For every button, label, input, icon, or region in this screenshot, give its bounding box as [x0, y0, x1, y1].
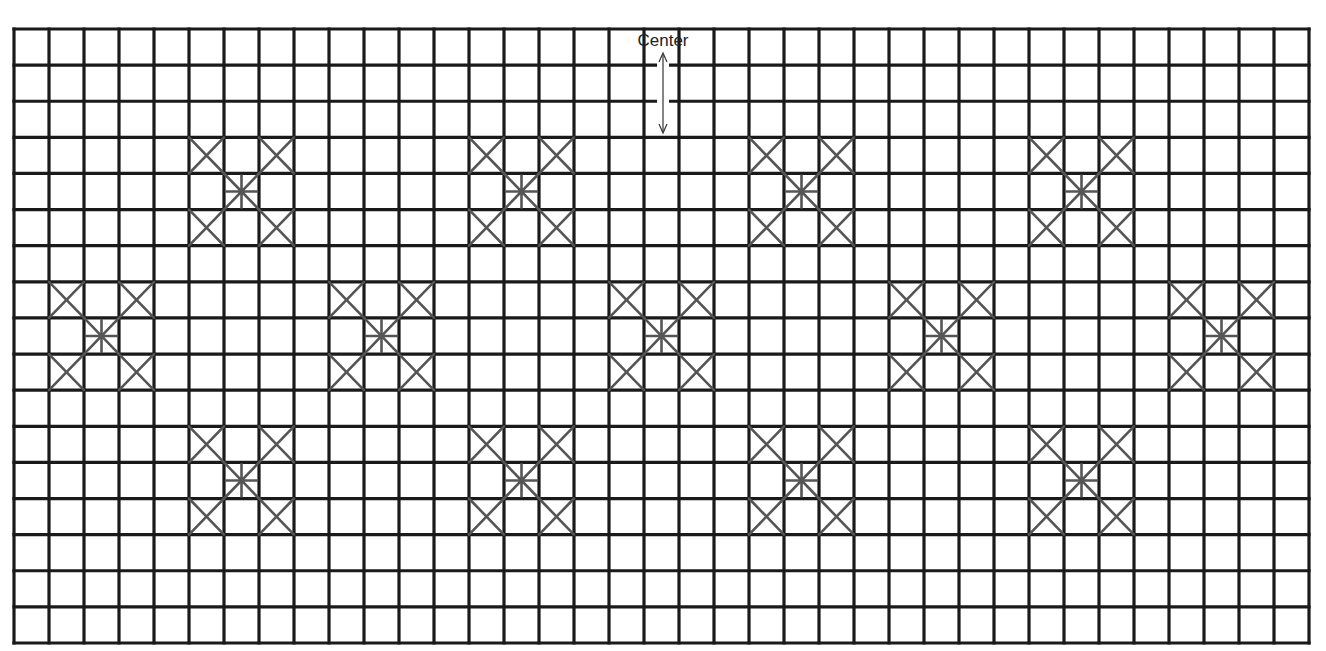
- star-center-dot: [1079, 189, 1085, 195]
- star-center-dot: [799, 477, 805, 483]
- cross-stitch-x-icon: [1169, 354, 1204, 390]
- stitch-motif: [609, 282, 714, 390]
- cross-stitch-x-icon: [889, 282, 924, 318]
- cross-stitch-x-icon: [959, 354, 994, 390]
- cross-stitch-x-icon: [1169, 282, 1204, 318]
- star-stitch-icon: [924, 318, 959, 354]
- star-stitch-icon: [1064, 173, 1099, 209]
- star-stitch-icon: [224, 462, 259, 498]
- center-label: Center: [637, 32, 688, 49]
- cross-stitch-x-icon: [959, 282, 994, 318]
- cross-stitch-x-icon: [49, 282, 84, 318]
- cross-stitch-x-icon: [329, 282, 364, 318]
- cross-stitch-x-icon: [1099, 210, 1134, 246]
- cross-stitch-x-icon: [1239, 282, 1274, 318]
- cross-stitch-x-icon: [1239, 354, 1274, 390]
- cross-stitch-x-icon: [259, 426, 294, 462]
- cross-stitch-x-icon: [749, 137, 784, 173]
- cross-stitch-x-icon: [119, 282, 154, 318]
- cross-stitch-x-icon: [469, 137, 504, 173]
- stitch-motif: [329, 282, 434, 390]
- cross-stitch-x-icon: [399, 354, 434, 390]
- cross-stitch-x-icon: [329, 354, 364, 390]
- cross-stitch-x-icon: [679, 354, 714, 390]
- star-stitch-icon: [1064, 462, 1099, 498]
- star-center-dot: [799, 189, 805, 195]
- cross-stitch-x-icon: [819, 210, 854, 246]
- stitch-motif: [1169, 282, 1274, 390]
- cross-stitch-x-icon: [399, 282, 434, 318]
- cross-stitch-x-icon: [119, 354, 154, 390]
- cross-stitch-x-icon: [819, 426, 854, 462]
- cross-stitch-x-icon: [1029, 137, 1064, 173]
- cross-stitch-x-icon: [469, 426, 504, 462]
- cross-stitch-x-icon: [609, 282, 644, 318]
- cross-stitch-x-icon: [819, 499, 854, 535]
- star-center-dot: [379, 333, 385, 339]
- cross-stitch-x-icon: [539, 137, 574, 173]
- cross-stitch-x-icon: [189, 499, 224, 535]
- star-center-dot: [239, 189, 245, 195]
- cross-stitch-x-icon: [259, 137, 294, 173]
- center-marker: [657, 51, 669, 135]
- cross-stitch-x-icon: [1029, 426, 1064, 462]
- star-stitch-icon: [504, 173, 539, 209]
- motif-layer: [49, 137, 1274, 534]
- star-center-dot: [659, 333, 665, 339]
- star-stitch-icon: [364, 318, 399, 354]
- star-stitch-icon: [784, 173, 819, 209]
- cross-stitch-x-icon: [889, 354, 924, 390]
- cross-stitch-x-icon: [469, 499, 504, 535]
- cross-stitch-x-icon: [1099, 426, 1134, 462]
- stitch-motif: [1029, 137, 1134, 245]
- cross-stitch-x-icon: [609, 354, 644, 390]
- cross-stitch-x-icon: [749, 210, 784, 246]
- cross-stitch-x-icon: [1029, 499, 1064, 535]
- cross-stitch-x-icon: [189, 210, 224, 246]
- stitch-motif: [49, 282, 154, 390]
- cross-stitch-x-icon: [1099, 137, 1134, 173]
- cross-stitch-x-icon: [539, 499, 574, 535]
- cross-stitch-x-icon: [469, 210, 504, 246]
- star-center-dot: [99, 333, 105, 339]
- star-center-dot: [1079, 477, 1085, 483]
- star-center-dot: [939, 333, 945, 339]
- star-center-dot: [519, 189, 525, 195]
- star-stitch-icon: [224, 173, 259, 209]
- star-stitch-icon: [84, 318, 119, 354]
- cross-stitch-x-icon: [1029, 210, 1064, 246]
- cross-stitch-x-icon: [49, 354, 84, 390]
- stitch-motif: [889, 282, 994, 390]
- stitch-motif: [749, 137, 854, 245]
- star-center-dot: [239, 477, 245, 483]
- stitch-grid: [0, 0, 1326, 651]
- star-stitch-icon: [644, 318, 679, 354]
- stitch-motif: [469, 137, 574, 245]
- star-center-dot: [1219, 333, 1225, 339]
- star-center-dot: [519, 477, 525, 483]
- stitch-motif: [189, 137, 294, 245]
- cross-stitch-x-icon: [749, 499, 784, 535]
- star-stitch-icon: [504, 462, 539, 498]
- cross-stitch-x-icon: [749, 426, 784, 462]
- cross-stitch-x-icon: [189, 137, 224, 173]
- stitch-motif: [749, 426, 854, 534]
- stitch-motif: [469, 426, 574, 534]
- star-stitch-icon: [1204, 318, 1239, 354]
- star-stitch-icon: [784, 462, 819, 498]
- cross-stitch-x-icon: [259, 499, 294, 535]
- cross-stitch-x-icon: [189, 426, 224, 462]
- cross-stitch-x-icon: [1099, 499, 1134, 535]
- cross-stitch-x-icon: [539, 426, 574, 462]
- cross-stitch-x-icon: [259, 210, 294, 246]
- cross-stitch-chart: Center: [0, 0, 1326, 651]
- cross-stitch-x-icon: [539, 210, 574, 246]
- cross-stitch-x-icon: [679, 282, 714, 318]
- stitch-motif: [189, 426, 294, 534]
- cross-stitch-x-icon: [819, 137, 854, 173]
- stitch-motif: [1029, 426, 1134, 534]
